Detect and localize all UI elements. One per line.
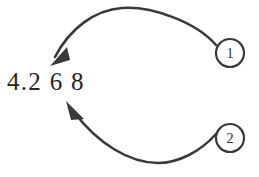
callout-overlay: 1 2 [0,0,259,177]
callout-marker-1-label: 1 [226,45,234,61]
callout-arrow-1 [55,8,216,57]
callout-arrowhead-2 [66,101,84,120]
callout-marker-2-label: 2 [226,130,234,146]
callout-group-2: 2 [66,101,244,163]
callout-group-1: 1 [50,8,244,67]
callout-arrow-2 [74,112,216,163]
